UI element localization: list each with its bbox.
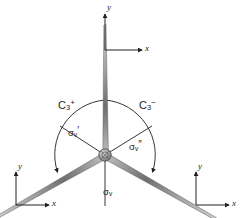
- symmetry-diagram: y x y x y x C3+ C3− σv′ σv″ σv: [0, 0, 242, 218]
- sigma-v-sub: v: [109, 190, 112, 197]
- axis-bottom-right-y-label: y: [198, 162, 202, 171]
- sigma-v-double-prime-mark: ″: [138, 139, 142, 150]
- propeller-hub: [99, 149, 111, 161]
- axis-bottom-left-x-label: x: [52, 199, 56, 208]
- label-sigma-v: σv: [103, 185, 112, 198]
- label-sigma-v-prime: σv′: [68, 126, 79, 139]
- sigma-v-prime-line: [60, 126, 105, 155]
- sigma-v-prime-mark: ′: [77, 125, 79, 136]
- axis-bottom-right-x-label: x: [232, 199, 236, 208]
- axis-bottom-right: [196, 172, 229, 205]
- label-c3-plus: C3+: [58, 99, 75, 112]
- c3-plus-sup: +: [70, 98, 75, 107]
- c3-minus-sup: −: [151, 98, 156, 107]
- label-c3-minus: C3−: [139, 99, 156, 112]
- c3-plus-symbol: C: [58, 99, 66, 111]
- axis-top-y-label: y: [107, 3, 111, 12]
- axis-top-x-label: x: [145, 44, 149, 53]
- axis-top: [105, 14, 142, 50]
- diagram-canvas: [0, 0, 242, 218]
- axis-bottom-left-y-label: y: [18, 162, 22, 171]
- c3-minus-symbol: C: [139, 99, 147, 111]
- axes-group: [16, 14, 229, 205]
- propeller-blade: [103, 24, 109, 151]
- label-sigma-v-double-prime: σv″: [129, 140, 142, 153]
